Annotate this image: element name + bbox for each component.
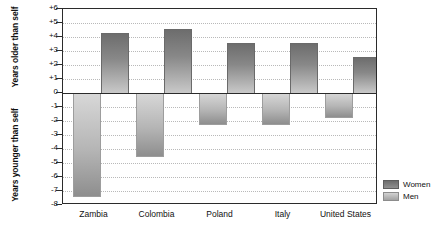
gridline bbox=[63, 149, 376, 150]
x-category-label: United States bbox=[316, 209, 376, 219]
y-tick-mark bbox=[56, 162, 62, 163]
y-tick-mark bbox=[56, 78, 62, 79]
y-tick-mark bbox=[56, 176, 62, 177]
y-tick-label: -3 bbox=[36, 130, 58, 138]
legend-item-women: Women bbox=[383, 180, 443, 189]
bar-men-poland bbox=[199, 93, 227, 125]
y-tick-label: +1 bbox=[36, 74, 58, 82]
y-tick-mark bbox=[56, 92, 62, 93]
y-tick-mark bbox=[56, 64, 62, 65]
y-tick-mark bbox=[56, 50, 62, 51]
y-axis-label-upper: Years older than self bbox=[10, 0, 20, 95]
y-tick-mark bbox=[56, 190, 62, 191]
y-tick-label: +4 bbox=[36, 32, 58, 40]
y-tick-mark bbox=[56, 36, 62, 37]
legend-swatch-women bbox=[383, 180, 399, 189]
gridline bbox=[63, 177, 376, 178]
bar-men-italy bbox=[262, 93, 290, 125]
y-tick-label: -6 bbox=[36, 172, 58, 180]
bar-men-united-states bbox=[325, 93, 353, 118]
chart-legend: Women Men bbox=[383, 180, 443, 204]
y-tick-mark bbox=[56, 204, 62, 205]
y-tick-label: -8 bbox=[36, 200, 58, 208]
y-axis-tick-labels: +6+5+4+3+2+10-1-2-3-4-5-6-7-8 bbox=[36, 8, 58, 204]
bar-women-italy bbox=[290, 43, 318, 93]
legend-swatch-men bbox=[383, 192, 399, 201]
gridline bbox=[63, 191, 376, 192]
y-tick-label: -4 bbox=[36, 144, 58, 152]
legend-label-men: Men bbox=[403, 192, 419, 201]
gridline bbox=[63, 163, 376, 164]
bar-women-poland bbox=[227, 43, 255, 93]
y-tick-label: -7 bbox=[36, 186, 58, 194]
x-category-label: Poland bbox=[190, 209, 250, 219]
y-tick-mark bbox=[56, 106, 62, 107]
y-tick-mark bbox=[56, 8, 62, 9]
bar-men-colombia bbox=[136, 93, 164, 157]
bar-men-zambia bbox=[73, 93, 101, 197]
x-category-label: Italy bbox=[253, 209, 313, 219]
y-tick-mark bbox=[56, 22, 62, 23]
y-tick-label: -2 bbox=[36, 116, 58, 124]
y-tick-label: +3 bbox=[36, 46, 58, 54]
y-tick-label: +5 bbox=[36, 18, 58, 26]
y-tick-mark bbox=[56, 134, 62, 135]
gridline bbox=[63, 23, 376, 24]
zero-baseline bbox=[63, 93, 376, 94]
y-tick-label: +6 bbox=[36, 4, 58, 12]
bar-women-colombia bbox=[164, 29, 192, 93]
y-tick-label: 0 bbox=[36, 88, 58, 96]
y-tick-label: -1 bbox=[36, 102, 58, 110]
x-category-label: Zambia bbox=[64, 209, 124, 219]
legend-label-women: Women bbox=[403, 180, 430, 189]
gridline bbox=[63, 135, 376, 136]
plot-area bbox=[62, 8, 377, 204]
bar-women-united-states bbox=[353, 57, 378, 93]
legend-item-men: Men bbox=[383, 192, 443, 201]
chart-figure: Years older than self Years younger than… bbox=[0, 0, 444, 251]
y-tick-mark bbox=[56, 120, 62, 121]
bar-women-zambia bbox=[101, 33, 129, 93]
x-category-label: Colombia bbox=[127, 209, 187, 219]
y-tick-label: +2 bbox=[36, 60, 58, 68]
y-tick-label: -5 bbox=[36, 158, 58, 166]
y-axis-label-lower: Years younger than self bbox=[10, 107, 20, 203]
y-tick-mark bbox=[56, 148, 62, 149]
